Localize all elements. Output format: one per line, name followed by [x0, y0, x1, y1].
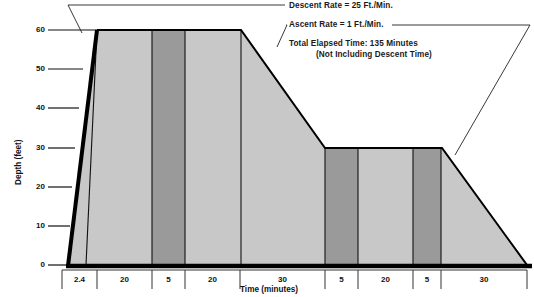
dive-profile-area: [68, 30, 527, 265]
shade-band-30ft-5min-first: [325, 148, 358, 265]
ascent-rate-leader: [277, 25, 287, 47]
segment-label-2: 5: [152, 275, 185, 284]
y-axis-title: Depth (feet): [14, 140, 23, 185]
y-tick-label-60: 60: [25, 25, 45, 34]
segment-label-7: 5: [413, 275, 441, 284]
shade-band-30ft-5min-second: [413, 148, 441, 265]
segment-label-3: 20: [185, 275, 240, 284]
shade-band-60ft-5min: [152, 30, 185, 265]
annotation-ascent-rate: Ascent Rate = 1 Ft./Min.: [289, 20, 384, 29]
x-axis-title: Time (minutes): [240, 285, 298, 294]
dive-profile-figure: 60 50 40 30 20 10 0 Depth (feet) 2.4 20 …: [0, 0, 534, 297]
y-tick-label-0: 0: [25, 260, 45, 269]
y-tick-label-10: 10: [25, 221, 45, 230]
descent-rate-leader: [68, 5, 285, 33]
y-tick-label-30: 30: [25, 143, 45, 152]
segment-label-5: 5: [325, 275, 358, 284]
segment-label-6: 20: [358, 275, 413, 284]
y-tick-label-40: 40: [25, 103, 45, 112]
dive-profile-chart: [0, 0, 534, 297]
y-tick-label-20: 20: [25, 182, 45, 191]
segment-label-1: 20: [97, 275, 152, 284]
segment-label-4: 30: [240, 275, 325, 284]
annotation-total-elapsed-time-note: (Not Including Descent Time): [316, 50, 432, 59]
segment-label-8: 30: [441, 275, 527, 284]
annotation-total-elapsed-time: Total Elapsed Time: 135 Minutes: [289, 39, 418, 48]
annotation-descent-rate: Descent Rate = 25 Ft./Min.: [289, 1, 393, 10]
segment-label-0: 2.4: [62, 275, 97, 284]
y-tick-label-50: 50: [25, 64, 45, 73]
